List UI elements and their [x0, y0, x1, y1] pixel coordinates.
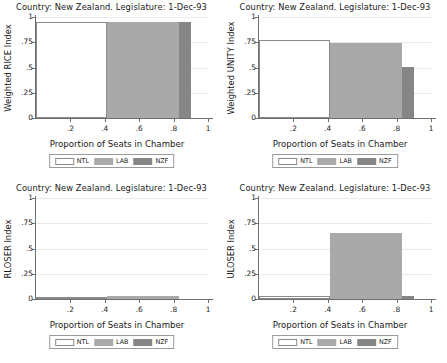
x-tick [397, 300, 398, 303]
legend-label: NZF [379, 338, 392, 346]
gridline [36, 198, 208, 199]
x-tick [431, 300, 432, 303]
y-tick-label: 0 [251, 294, 256, 303]
y-tick-label: .25 [21, 88, 33, 97]
panel-title: Country: New Zealand. Legislature: 1-Dec… [0, 2, 223, 12]
legend-label: NZF [155, 338, 168, 346]
x-tick [362, 300, 363, 303]
legend-label: NZF [379, 157, 392, 165]
panel-rice: Country: New Zealand. Legislature: 1-Dec… [0, 0, 223, 181]
x-tick [208, 300, 209, 303]
y-axis-label: Weighted UNITY Index [225, 17, 237, 118]
legend-item-nzf: NZF [133, 338, 168, 346]
bars-container [36, 198, 208, 299]
legend: NTLLABNZF [272, 154, 398, 168]
x-axis-label: Proportion of Seats in Chamber [22, 320, 212, 330]
y-tick-label: 1 [28, 193, 33, 202]
x-tick-label: .2 [67, 305, 74, 314]
y-tick-label: 0 [28, 294, 33, 303]
x-tick [328, 300, 329, 303]
x-tick [431, 119, 432, 122]
x-tick-label: .2 [67, 124, 74, 133]
y-tick-label: .5 [26, 244, 33, 253]
bar-ntl [259, 40, 330, 118]
panel-title: Country: New Zealand. Legislature: 1-Dec… [0, 183, 223, 193]
legend-label: NZF [155, 157, 168, 165]
bars-container [259, 17, 431, 118]
bar-ntl [259, 296, 330, 299]
x-tick [397, 119, 398, 122]
x-tick-label: .6 [136, 124, 143, 133]
legend-swatch-nzf-icon [357, 158, 376, 165]
x-tick [174, 300, 175, 303]
legend-label: LAB [339, 338, 351, 346]
x-tick [362, 119, 363, 122]
x-axis-line [258, 299, 436, 300]
x-tick-label: 1 [429, 124, 434, 133]
bar-lab [107, 22, 179, 118]
y-tick-label: 0 [251, 113, 256, 122]
panel-unity: Country: New Zealand. Legislature: 1-Dec… [223, 0, 447, 181]
legend-item-nzf: NZF [133, 157, 168, 165]
gridline [36, 274, 208, 275]
legend-swatch-ntl-icon [278, 158, 297, 165]
bar-lab [330, 43, 402, 118]
x-axis-line [258, 118, 436, 119]
legend-swatch-lab-icon [94, 339, 113, 346]
legend-item-nzf: NZF [357, 338, 392, 346]
x-tick [208, 119, 209, 122]
plot-area-unity: 0.25.5.751.2.4.6.81 [259, 17, 431, 118]
legend-swatch-ntl-icon [55, 158, 74, 165]
legend-item-ntl: NTL [55, 338, 89, 346]
x-tick [328, 119, 329, 122]
legend-label: NTL [77, 338, 89, 346]
legend-swatch-nzf-icon [133, 158, 152, 165]
legend-swatch-lab-icon [317, 339, 336, 346]
legend-swatch-ntl-icon [55, 339, 74, 346]
bar-ntl [36, 22, 107, 118]
plot-area-uloser: 0.25.5.751.2.4.6.81 [259, 198, 431, 299]
x-tick-label: 1 [429, 305, 434, 314]
bar-ntl [36, 297, 107, 299]
plot-area-rloser: 0.25.5.751.2.4.6.81 [36, 198, 208, 299]
y-axis-label: RLOSER Index [2, 198, 14, 299]
bar-lab [330, 233, 402, 299]
legend: NTLLABNZF [49, 154, 175, 168]
x-tick-label: .4 [324, 124, 331, 133]
gridline [36, 223, 208, 224]
legend-item-lab: LAB [94, 157, 128, 165]
legend-label: LAB [116, 157, 128, 165]
legend-swatch-ntl-icon [278, 339, 297, 346]
y-tick-label: .5 [26, 63, 33, 72]
plot-area-rice: 0.25.5.751.2.4.6.81 [36, 17, 208, 118]
legend-item-nzf: NZF [357, 157, 392, 165]
x-axis-label: Proportion of Seats in Chamber [22, 139, 212, 149]
y-tick-label: .25 [21, 269, 33, 278]
x-tick-label: .8 [393, 305, 400, 314]
y-tick-label: .75 [244, 218, 256, 227]
y-tick-label: .75 [244, 37, 256, 46]
legend-item-lab: LAB [317, 157, 351, 165]
panel-rloser: Country: New Zealand. Legislature: 1-Dec… [0, 181, 223, 363]
x-tick [70, 119, 71, 122]
y-tick-label: .75 [21, 37, 33, 46]
x-tick [293, 119, 294, 122]
panel-uloser: Country: New Zealand. Legislature: 1-Dec… [223, 181, 447, 363]
y-tick-label: .5 [249, 63, 256, 72]
y-tick-label: .75 [21, 218, 33, 227]
bar-nzf [402, 296, 414, 299]
y-axis-label: ULOSER Index [225, 198, 237, 299]
bar-lab [107, 296, 179, 299]
y-tick-label: 0 [28, 113, 33, 122]
legend-label: LAB [339, 157, 351, 165]
y-tick-label: 1 [251, 12, 256, 21]
x-tick-label: 1 [206, 305, 211, 314]
x-tick [139, 300, 140, 303]
x-axis-line [35, 118, 213, 119]
legend-label: NTL [300, 338, 312, 346]
x-tick-label: .2 [290, 124, 297, 133]
y-tick-label: 1 [28, 12, 33, 21]
bars-container [36, 17, 208, 118]
x-tick [105, 119, 106, 122]
legend-swatch-lab-icon [94, 158, 113, 165]
